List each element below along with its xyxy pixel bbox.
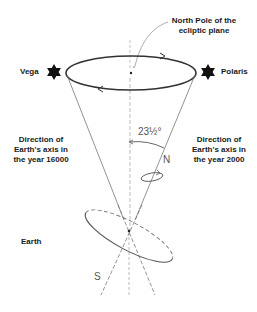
earth-center-dot bbox=[128, 230, 131, 233]
north-label: N bbox=[163, 154, 170, 165]
direction-2000-line3: the year 2000 bbox=[183, 155, 255, 165]
polaris-star-icon bbox=[201, 64, 215, 80]
earth-equator bbox=[79, 201, 179, 272]
angle-label: 23½° bbox=[138, 126, 161, 137]
vega-star-icon bbox=[47, 64, 61, 80]
direction-2000-line2: Earth's axis in bbox=[183, 145, 255, 155]
earth-label: Earth bbox=[21, 237, 41, 247]
ecliptic-pole-dot bbox=[130, 72, 132, 74]
direction-16000-line2: Earth's axis in bbox=[5, 145, 77, 155]
ecliptic-pole-label-line1: North Pole of the bbox=[168, 16, 240, 26]
leader-end-dot bbox=[133, 66, 134, 67]
axis-2000-dashed bbox=[101, 205, 142, 295]
leader-line bbox=[135, 22, 168, 66]
south-label: S bbox=[94, 271, 101, 282]
axis-16000-dashed bbox=[118, 205, 155, 295]
direction-16000-label: Direction of Earth's axis in the year 16… bbox=[5, 135, 77, 165]
angle-arc bbox=[130, 142, 164, 148]
direction-16000-line1: Direction of bbox=[5, 135, 77, 145]
direction-16000-line3: the year 16000 bbox=[5, 155, 77, 165]
direction-2000-label: Direction of Earth's axis in the year 20… bbox=[183, 135, 255, 165]
vega-label: Vega bbox=[20, 67, 39, 77]
ecliptic-pole-label: North Pole of the ecliptic plane bbox=[168, 16, 240, 36]
direction-2000-line1: Direction of bbox=[183, 135, 255, 145]
polaris-label: Polaris bbox=[221, 67, 248, 77]
ecliptic-pole-label-line2: ecliptic plane bbox=[168, 26, 240, 36]
